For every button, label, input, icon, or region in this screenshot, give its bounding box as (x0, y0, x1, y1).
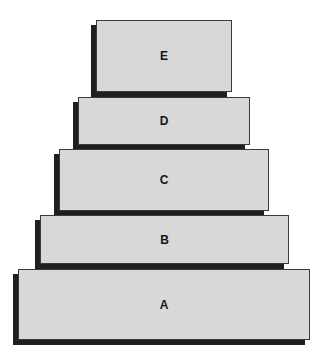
tier-d: D (78, 97, 250, 145)
tier-c: C (59, 149, 269, 211)
tier-e-label: E (160, 49, 168, 63)
tier-d-label: D (160, 114, 169, 128)
tier-b: B (40, 215, 289, 264)
tier-c-label: C (160, 173, 169, 187)
tier-e: E (96, 20, 232, 92)
tier-b-label: B (160, 233, 169, 247)
tier-a-label: A (160, 298, 169, 312)
tier-a: A (18, 269, 310, 340)
